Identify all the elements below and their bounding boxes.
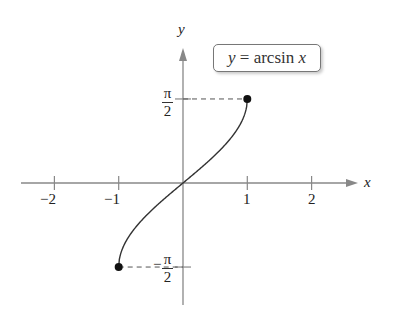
x-axis-arrow-icon bbox=[346, 179, 358, 187]
x-tick-label: −1 bbox=[104, 192, 120, 207]
y-axis-arrow-icon bbox=[179, 48, 187, 61]
endpoint-dot bbox=[243, 95, 251, 103]
plot-area bbox=[0, 0, 398, 312]
y-axis-label: y bbox=[178, 22, 185, 37]
chart: y x −2 −1 1 2 π 2 − π 2 y = arcsin x bbox=[0, 0, 398, 312]
function-label: y = arcsin x bbox=[213, 44, 321, 72]
y-tick-label-neg-pi-over-2: π 2 bbox=[162, 252, 173, 285]
x-tick-label: 2 bbox=[308, 192, 316, 207]
x-axis-label: x bbox=[364, 175, 371, 190]
y-tick-label-minus-sign: − bbox=[153, 257, 161, 272]
x-tick-label: −2 bbox=[40, 192, 56, 207]
endpoint-dot bbox=[115, 263, 123, 271]
y-tick-label-pi-over-2: π 2 bbox=[162, 86, 173, 119]
x-tick-label: 1 bbox=[243, 192, 251, 207]
